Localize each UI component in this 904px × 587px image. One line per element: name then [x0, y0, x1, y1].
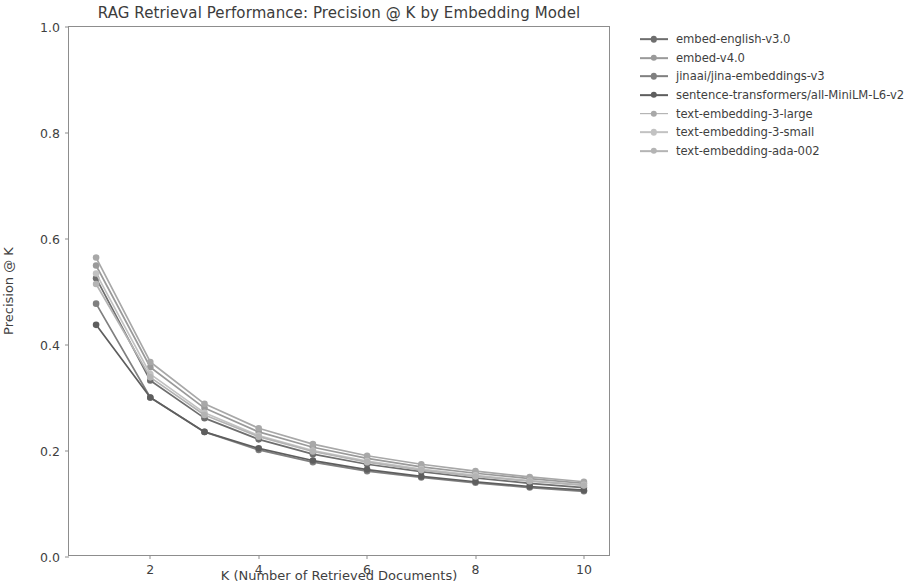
series-embed-english-v3.0 [93, 275, 587, 491]
legend-item-label: text-embedding-ada-002 [676, 144, 820, 158]
legend-swatch-icon [640, 145, 668, 157]
chart-title: RAG Retrieval Performance: Precision @ K… [68, 4, 610, 22]
x-tick-mark [583, 555, 584, 559]
x-tick-mark [150, 555, 151, 559]
y-tick-mark [65, 27, 69, 28]
data-point-marker [310, 448, 317, 455]
plot-area: 0.00.20.40.60.81.0 246810 [68, 26, 610, 556]
data-point-marker [581, 482, 588, 489]
data-point-marker [147, 359, 154, 366]
data-point-marker [93, 254, 100, 261]
y-tick-mark [65, 133, 69, 134]
chart-legend: embed-english-v3.0embed-v4.0jinaai/jina-… [628, 26, 880, 160]
data-point-marker [93, 281, 100, 288]
legend-swatch-icon [640, 108, 668, 120]
y-tick-mark [65, 239, 69, 240]
series-line [96, 258, 584, 482]
legend-item-label: jinaai/jina-embeddings-v3 [676, 69, 825, 83]
data-point-marker [472, 473, 479, 480]
legend-swatch-icon [640, 70, 668, 82]
y-tick-mark [65, 557, 69, 558]
legend-item[interactable]: text-embedding-ada-002 [628, 142, 880, 161]
legend-swatch-icon [640, 33, 668, 45]
data-point-marker [147, 374, 154, 381]
series-line [96, 304, 584, 492]
data-point-marker [364, 466, 371, 473]
data-point-marker [93, 270, 100, 277]
legend-swatch-icon [640, 89, 668, 101]
legend-item-label: text-embedding-3-small [676, 125, 814, 139]
y-tick-mark [65, 451, 69, 452]
legend-item[interactable]: jinaai/jina-embeddings-v3 [628, 67, 880, 86]
data-point-marker [310, 441, 317, 448]
data-point-marker [418, 473, 425, 480]
legend-item[interactable]: embed-v4.0 [628, 49, 880, 68]
legend-item[interactable]: sentence-transformers/all-MiniLM-L6-v2 [628, 86, 880, 105]
data-point-marker [255, 445, 262, 452]
series-sentence-transformers/all-MiniLM-L6-v2 [93, 322, 587, 494]
data-point-marker [147, 394, 154, 401]
series-line [96, 325, 584, 490]
y-tick-mark [65, 345, 69, 346]
legend-swatch-icon [640, 126, 668, 138]
series-text-embedding-3-large [93, 254, 587, 485]
legend-item[interactable]: text-embedding-3-small [628, 123, 880, 142]
x-axis-label: K (Number of Retrieved Documents) [68, 568, 610, 583]
legend-item-label: text-embedding-3-large [676, 107, 813, 121]
legend-item-label: sentence-transformers/all-MiniLM-L6-v2 [676, 88, 904, 102]
data-point-marker [418, 467, 425, 474]
data-point-marker [255, 433, 262, 440]
data-point-marker [310, 457, 317, 464]
data-point-marker [201, 429, 208, 436]
legend-item[interactable]: text-embedding-3-large [628, 104, 880, 123]
plot-inner [69, 27, 609, 555]
data-point-marker [255, 425, 262, 432]
x-tick-mark [258, 555, 259, 559]
data-point-marker [93, 322, 100, 329]
series-canvas [69, 27, 611, 557]
x-tick-mark [475, 555, 476, 559]
legend-item[interactable]: embed-english-v3.0 [628, 30, 880, 49]
x-tick-mark [367, 555, 368, 559]
data-point-marker [201, 412, 208, 419]
series-text-embedding-ada-002 [93, 281, 587, 489]
legend-item-label: embed-english-v3.0 [676, 32, 790, 46]
data-point-marker [526, 478, 533, 485]
legend-swatch-icon [640, 52, 668, 64]
y-axis-label: Precision @ K [1, 247, 16, 335]
data-point-marker [201, 401, 208, 408]
data-point-marker [93, 300, 100, 307]
data-point-marker [364, 459, 371, 466]
legend-item-label: embed-v4.0 [676, 51, 745, 65]
